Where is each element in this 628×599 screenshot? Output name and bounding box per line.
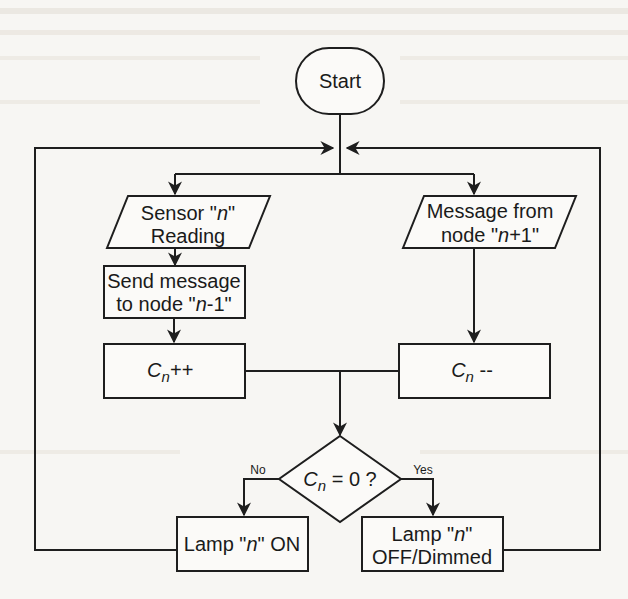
lamp-on-post: " ON (258, 533, 301, 555)
svg-text:node "n+1": node "n+1" (441, 224, 539, 246)
edge-no-branch (244, 479, 279, 515)
send-label-post: -1" (207, 293, 232, 315)
svg-text:to node "n-1": to node "n-1" (116, 293, 231, 315)
sensor-var: n (217, 202, 228, 224)
lamp-on-node: Lamp "n" ON (177, 517, 308, 571)
edge-yes-branch (401, 479, 433, 515)
message-label-line1: Message from (427, 200, 554, 222)
inc-sub: n (161, 368, 169, 385)
send-var: n (196, 293, 207, 315)
send-label-line1: Send message (107, 270, 240, 292)
svg-text:Lamp "n": Lamp "n" (392, 523, 473, 545)
svg-text:Lamp "n" ON: Lamp "n" ON (184, 533, 300, 555)
inc-var: C (147, 359, 162, 381)
dec-var: C (451, 359, 466, 381)
start-label: Start (319, 70, 362, 92)
svg-text:Sensor "n": Sensor "n" (141, 202, 235, 224)
inc-op: ++ (170, 359, 193, 381)
dec-op: -- (474, 359, 493, 381)
decision-node: Cn = 0 ? (279, 436, 401, 522)
message-label-pre: node " (441, 224, 498, 246)
message-label-post: +1" (509, 224, 539, 246)
lamp-off-node: Lamp "n" OFF/Dimmed (362, 517, 503, 571)
decision-var: C (303, 468, 318, 490)
decision-sub: n (318, 477, 326, 494)
start-node: Start (296, 48, 384, 114)
send-label-pre: to node " (116, 293, 195, 315)
sensor-label-pre: Sensor " (141, 202, 217, 224)
decision-rest: = 0 ? (326, 468, 377, 490)
send-message-node: Send message to node "n-1" (104, 266, 245, 318)
lamp-on-var: n (246, 533, 257, 555)
counter-increment-node: Cn++ (104, 344, 245, 398)
flowchart: Start Sensor "n" Reading Message from no… (0, 0, 628, 599)
sensor-label-line2: Reading (151, 225, 226, 247)
no-label: No (250, 463, 266, 477)
sensor-label-post: " (228, 202, 235, 224)
yes-label: Yes (413, 463, 433, 477)
lamp-off-post: " (465, 523, 472, 545)
lamp-off-var: n (454, 523, 465, 545)
dec-sub: n (466, 368, 474, 385)
message-var: n (498, 224, 509, 246)
lamp-on-pre: Lamp " (184, 533, 247, 555)
lamp-off-pre: Lamp " (392, 523, 455, 545)
counter-decrement-node: Cn -- (399, 344, 550, 398)
sensor-reading-node: Sensor "n" Reading (107, 196, 270, 248)
lamp-off-line2: OFF/Dimmed (372, 546, 492, 568)
message-from-node: Message from node "n+1" (403, 196, 576, 248)
